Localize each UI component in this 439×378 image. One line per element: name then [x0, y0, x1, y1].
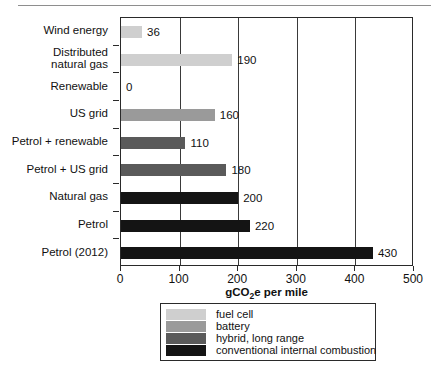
- y-axis-tick: [113, 238, 119, 239]
- x-axis-tick-label: 300: [286, 272, 306, 286]
- legend-label: hybrid, long range: [216, 332, 304, 344]
- x-axis-tick-400: [354, 266, 355, 271]
- y-axis-tick: [113, 183, 119, 184]
- x-axis-tick-label: 0: [117, 272, 124, 286]
- bar: [121, 247, 373, 259]
- x-axis-tick-300: [296, 266, 297, 271]
- x-axis-tick-200: [237, 266, 238, 271]
- bar-value-label: 220: [255, 220, 274, 232]
- bar: [121, 26, 142, 38]
- x-axis-tick-0: [120, 266, 121, 271]
- legend-swatch: [166, 309, 206, 320]
- header-rule: [18, 5, 431, 6]
- bar-value-label: 430: [378, 247, 397, 259]
- bar: [121, 220, 250, 232]
- y-axis-tick: [113, 45, 119, 46]
- y-axis-label: Distributednatural gas: [3, 46, 108, 71]
- y-axis-tick: [113, 128, 119, 129]
- y-axis-label: Petrol (2012): [42, 246, 108, 259]
- y-axis-label: Natural gas: [49, 190, 108, 203]
- bar: [121, 54, 232, 66]
- legend-label: fuel cell: [216, 308, 253, 320]
- bar-value-label: 110: [190, 137, 208, 149]
- bar: [121, 164, 226, 176]
- x-axis-title: gCO2e per mile: [120, 286, 413, 301]
- x-axis-tick-label: 500: [403, 272, 423, 286]
- bar: [121, 137, 185, 149]
- legend-swatch: [166, 333, 206, 344]
- bar-value-label: 0: [126, 81, 132, 93]
- chart-legend: fuel cellbatteryhybrid, long rangeconven…: [160, 303, 376, 361]
- bar-value-label: 190: [237, 54, 256, 66]
- gridline-400: [355, 18, 356, 265]
- legend-swatch: [166, 321, 206, 332]
- y-axis-tick: [113, 155, 119, 156]
- x-axis-tick-label: 100: [169, 272, 189, 286]
- legend-label: conventional internal combustion: [216, 344, 376, 356]
- y-axis-label: Petrol + renewable: [12, 135, 108, 148]
- y-axis-label: US grid: [70, 107, 108, 120]
- x-axis-tick-label: 400: [344, 272, 364, 286]
- legend-item: conventional internal combustion: [166, 344, 370, 356]
- y-axis-label: Petrol: [78, 218, 108, 231]
- bar: [121, 192, 238, 204]
- legend-item: hybrid, long range: [166, 332, 370, 344]
- x-axis-tick-500: [413, 266, 414, 271]
- x-axis-tick-label: 200: [227, 272, 247, 286]
- gridline-300: [297, 18, 298, 265]
- y-axis-label: Petrol + US grid: [27, 163, 109, 176]
- legend-swatch: [166, 345, 206, 356]
- y-axis-tick: [113, 211, 119, 212]
- chart-figure: Wind energyDistributednatural gasRenewab…: [0, 0, 439, 378]
- bar-value-label: 36: [147, 26, 160, 38]
- bar-value-label: 200: [243, 192, 262, 204]
- y-axis-label: Renewable: [50, 80, 108, 93]
- bar: [121, 109, 215, 121]
- y-axis-labels: Wind energyDistributednatural gasRenewab…: [0, 17, 116, 266]
- y-axis-label: Wind energy: [43, 24, 108, 37]
- bar-value-label: 160: [220, 109, 239, 121]
- x-axis-title-suffix: e per mile: [254, 286, 308, 298]
- legend-label: battery: [216, 320, 250, 332]
- plot-area: 361900160110180200220430: [120, 17, 413, 266]
- legend-item: fuel cell: [166, 308, 370, 320]
- x-axis-title-prefix: gCO: [225, 286, 249, 298]
- legend-item: battery: [166, 320, 370, 332]
- x-axis-tick-100: [179, 266, 180, 271]
- y-axis-tick: [113, 72, 119, 73]
- y-axis-tick: [113, 100, 119, 101]
- bar-value-label: 180: [231, 164, 250, 176]
